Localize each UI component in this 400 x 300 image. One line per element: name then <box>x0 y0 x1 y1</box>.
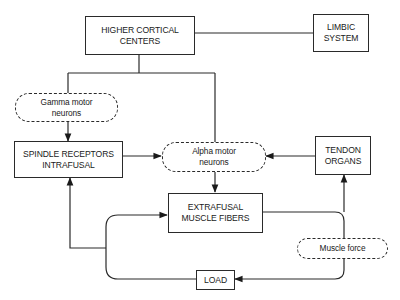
higher-cortical-centers-box: HIGHER CORTICAL CENTERS <box>85 16 195 55</box>
edge-load-spindle <box>70 178 106 248</box>
muscle-force-node: Muscle force <box>297 238 388 259</box>
extrafusal-muscle-fibers-label: EXTRAFUSAL MUSCLE FIBERS <box>182 202 250 224</box>
gamma-motor-neurons-node: Gamma motor neurons <box>15 93 118 122</box>
muscle-force-label: Muscle force <box>320 243 366 254</box>
gamma-motor-neurons-label: Gamma motor neurons <box>41 97 93 119</box>
higher-cortical-centers-label: HIGHER CORTICAL CENTERS <box>101 25 179 47</box>
load-box: LOAD <box>196 270 235 290</box>
tendon-organs-label: TENDON ORGANS <box>325 145 362 167</box>
tendon-organs-box: TENDON ORGANS <box>315 136 371 175</box>
load-label: LOAD <box>204 275 227 286</box>
extrafusal-muscle-fibers-box: EXTRAFUSAL MUSCLE FIBERS <box>168 193 263 233</box>
alpha-motor-neurons-node: Alpha motor neurons <box>162 142 266 172</box>
spindle-receptors-label: SPINDLE RECEPTORS INTRAFUSAL <box>23 149 114 171</box>
edge-extrafusal-force <box>262 212 344 238</box>
alpha-motor-neurons-label: Alpha motor neurons <box>192 146 236 168</box>
edge-force-load <box>235 258 344 279</box>
spindle-receptors-box: SPINDLE RECEPTORS INTRAFUSAL <box>14 141 123 178</box>
limbic-system-box: LIMBIC SYSTEM <box>313 14 369 52</box>
limbic-system-label: LIMBIC SYSTEM <box>324 22 359 44</box>
